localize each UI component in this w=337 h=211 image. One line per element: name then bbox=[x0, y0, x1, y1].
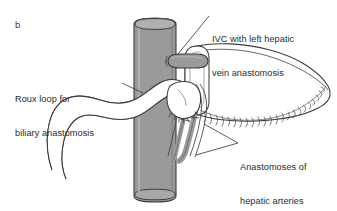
annotation-anastomoses-line1: Anastomoses of bbox=[240, 162, 307, 173]
annotation-roux-line2: biliary anastomosis bbox=[15, 128, 94, 139]
annotation-ivc-line1: IVC with left hepatic bbox=[212, 34, 294, 45]
annotation-roux-line1: Roux loop for bbox=[15, 94, 94, 105]
annotation-roux: Roux loop for biliary anastomosis bbox=[15, 71, 94, 162]
panel-label: b bbox=[15, 19, 20, 30]
annotation-ivc: IVC with left hepatic vein anastomosis bbox=[212, 11, 294, 102]
figure-panel-b: b IVC with left hepatic vein anastomosis… bbox=[0, 0, 337, 211]
annotation-anastomoses-line2: hepatic arteries bbox=[240, 196, 307, 207]
annotation-anastomoses: Anastomoses of hepatic arteries and port… bbox=[240, 139, 307, 211]
leader-line-anastomoses-lower bbox=[196, 143, 238, 155]
leader-line-anastomoses-upper bbox=[204, 124, 238, 143]
annotation-ivc-line2: vein anastomosis bbox=[212, 68, 294, 79]
left-hepatic-vein-stump bbox=[166, 54, 208, 68]
